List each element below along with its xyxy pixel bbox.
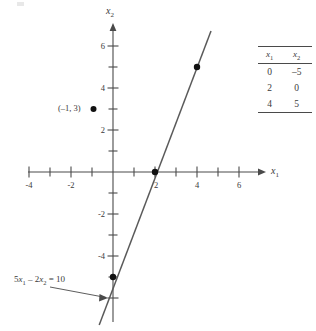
x-axis-arrowhead	[258, 169, 266, 176]
figure-canvas: x1 x2 -4 -2 2 4 6 6 4 2 -2 -4 (–1, 3) 5x…	[0, 0, 316, 331]
y-tick-label-6: 6	[92, 41, 105, 51]
equation-line	[99, 31, 211, 325]
cell-x2: 0	[281, 80, 312, 96]
equation-label: 5x1 – 2x2 = 10	[14, 274, 65, 286]
cell-x2: 5	[281, 96, 312, 113]
y-axis-title: x2	[106, 5, 114, 19]
equation-callout-arrow	[50, 287, 108, 302]
y-tick-label--2: -2	[88, 209, 105, 219]
x-tick-label-2: 2	[146, 180, 166, 190]
x-tick-label-6: 6	[229, 180, 249, 190]
x-axis-group	[28, 167, 266, 178]
value-table-body: 0 –5 2 0 4 5	[258, 63, 312, 112]
data-point-neg1-3	[91, 106, 97, 112]
y-tick-label-4: 4	[92, 83, 105, 93]
y-tick-label-2: 2	[92, 125, 105, 135]
table-row: 4 5	[258, 96, 312, 113]
cell-x1: 0	[258, 63, 281, 80]
y-tick-label--4: -4	[88, 251, 105, 261]
data-point-0-neg5	[110, 274, 116, 280]
y-axis-arrowhead	[110, 23, 117, 31]
value-table-header-x1: x1	[258, 47, 281, 64]
x-tick-label-4: 4	[187, 180, 207, 190]
x-tick-label--2: -2	[61, 180, 81, 190]
value-table-header-row: x1 x2	[258, 47, 312, 64]
value-table-header-x2: x2	[281, 47, 312, 64]
cell-x1: 2	[258, 80, 281, 96]
cell-x2: –5	[281, 63, 312, 80]
value-table-head: x1 x2	[258, 47, 312, 64]
x-axis-title: x1	[271, 165, 279, 179]
table-row: 0 –5	[258, 63, 312, 80]
x-tick-label--4: -4	[19, 180, 39, 190]
value-table: x1 x2 0 –5 2 0 4 5	[258, 46, 312, 113]
data-point-2-0	[152, 169, 158, 175]
cell-x1: 4	[258, 96, 281, 113]
data-point-4-5	[194, 64, 200, 70]
table-row: 2 0	[258, 80, 312, 96]
point-label-neg1-3: (–1, 3)	[58, 103, 81, 113]
